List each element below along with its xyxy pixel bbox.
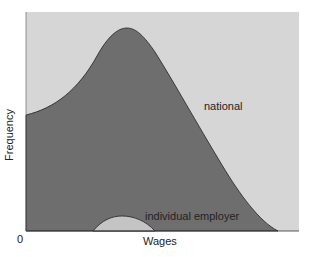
wage-distribution-chart: Frequency Wages 0 national individual em… [0,0,312,257]
national-series-label: national [204,100,243,112]
origin-label: 0 [17,233,23,245]
y-axis-label-text: Frequency [3,109,15,161]
individual-employer-series-label: individual employer [145,210,239,222]
x-axis-label: Wages [143,235,177,247]
y-axis-label: Frequency [2,95,16,175]
